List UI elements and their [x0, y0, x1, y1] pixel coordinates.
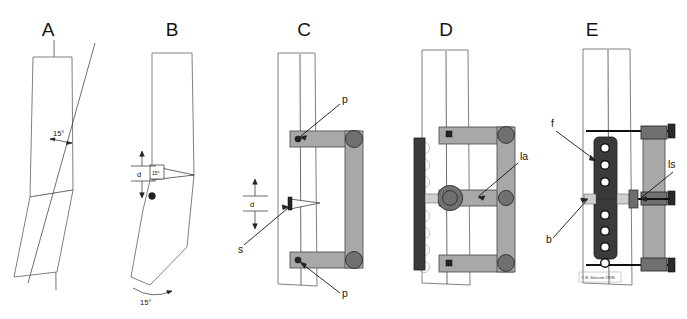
panel-letter-e: E [586, 19, 599, 40]
panel-c-group: C p p [238, 19, 363, 299]
plate-hole [601, 227, 610, 236]
panel-d-group: D [414, 19, 528, 285]
panel-b-rotation-arc: 15° [133, 288, 172, 307]
panel-c-p-upper-label: p [342, 93, 348, 105]
panel-e-bolt-head-upper [668, 124, 675, 138]
panel-b-proximal-segment [152, 53, 194, 175]
panel-e-bone-plate [594, 137, 617, 259]
panel-e-ls-label: ls [668, 158, 676, 170]
panel-b-group: B 15° d [131, 19, 194, 307]
panel-e-screw-collar [629, 190, 638, 208]
technical-diagram: A 15° B [0, 0, 687, 319]
panel-d-pin-lower [446, 260, 452, 266]
panel-c-s-label: s [238, 243, 243, 255]
panel-e-f-label: f [551, 117, 554, 129]
panel-b-pivot-point [149, 193, 156, 200]
panel-letter-d: D [439, 19, 453, 40]
plate-hole [601, 144, 610, 153]
panel-a-angle-label: 15° [53, 129, 64, 138]
panel-c-d-dimension: d [243, 179, 268, 229]
panel-d-la-label: la [520, 150, 528, 162]
panel-b-wedge-angle-label: 15° [152, 170, 160, 176]
panel-letter-a: A [42, 19, 55, 40]
panel-e-block-right [617, 194, 629, 204]
panel-a-proximal-segment [30, 57, 73, 197]
panel-c-d-label: d [250, 200, 254, 209]
panel-d-upper-clamp [498, 127, 515, 144]
panel-letter-c: C [297, 19, 311, 40]
panel-e-upper-clamp [641, 126, 667, 139]
panel-b-distal-segment [131, 172, 194, 285]
panel-a-distal-segment [14, 190, 73, 277]
panel-a-group: A 15° [14, 19, 95, 290]
panel-d-lower-clamp [498, 255, 515, 272]
panel-d-pin-upper [446, 131, 452, 137]
panel-d-bone-plate [414, 138, 425, 270]
panel-e-b-label: b [546, 233, 552, 245]
panel-c-lower-clamp [346, 252, 363, 269]
credit-text: © B. Slocum 1996 [581, 275, 615, 280]
panel-e-b-annotation: b [546, 198, 588, 245]
panel-e-bolt-head-lower [668, 258, 675, 272]
panel-c-wedge-apex-marker [288, 197, 292, 210]
figure-canvas: A 15° B [0, 0, 687, 319]
plate-hole [601, 178, 610, 187]
panel-b-d-label: d [137, 170, 141, 179]
panel-letter-b: B [166, 19, 179, 40]
panel-d-middle-clamp [498, 190, 513, 205]
plate-hole [601, 259, 610, 268]
panel-c-p-lower-label: p [342, 287, 348, 299]
panel-b-rotation-label: 15° [140, 298, 151, 307]
plate-hole [601, 243, 610, 252]
panel-d-central-hinge-inner [443, 191, 458, 206]
panel-c-vertical-bar [345, 131, 363, 268]
plate-hole [601, 211, 610, 220]
panel-d-plate-connector [425, 194, 438, 203]
panel-e-lower-clamp [641, 258, 667, 271]
panel-c-bone-shaft [278, 53, 317, 286]
plate-hole [601, 161, 610, 170]
panel-c-upper-clamp [346, 131, 363, 148]
panel-e-group: E [546, 19, 676, 285]
